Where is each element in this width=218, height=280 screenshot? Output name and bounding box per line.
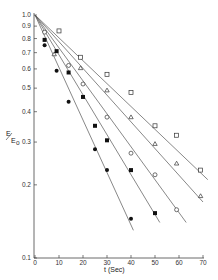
open-circle-marker	[67, 63, 71, 67]
x-tick-label: 20	[79, 259, 87, 266]
open-circle-marker	[129, 151, 133, 155]
x-tick-label: 30	[103, 259, 111, 266]
y-tick-label: 0.6	[22, 65, 31, 72]
filled-square-marker	[81, 95, 85, 99]
filled-square-marker	[129, 168, 133, 172]
open-triangle-marker	[105, 88, 109, 92]
open-triangle-marker	[153, 142, 157, 146]
filled-square-marker	[43, 38, 47, 42]
fit-line	[35, 15, 160, 222]
open-square-marker	[79, 55, 83, 59]
filled-circle-marker	[105, 168, 109, 172]
open-square-marker	[175, 133, 179, 137]
open-triangle-marker	[129, 115, 133, 119]
fit-line	[35, 15, 133, 230]
fit-lines	[35, 15, 208, 230]
filled-circle-marker	[55, 69, 59, 73]
open-triangle-marker	[174, 161, 178, 165]
x-tick-label: 60	[175, 259, 183, 266]
open-square-marker	[57, 29, 61, 33]
filled-square-marker	[153, 211, 157, 215]
x-axis-label: t (Sec)	[104, 266, 125, 274]
open-circle-marker	[105, 115, 109, 119]
fit-line	[35, 15, 208, 180]
filled-circle-marker	[67, 100, 71, 104]
x-tick-label: 50	[151, 259, 159, 266]
open-square-marker	[105, 72, 109, 76]
axes: 1.00.90.80.70.60.50.40.30.20.10102030405…	[22, 11, 207, 266]
open-circle-marker	[153, 173, 157, 177]
y-axis-label-numerator: E	[6, 130, 11, 137]
open-circle-marker	[81, 82, 85, 86]
filled-square-marker	[55, 49, 59, 53]
open-triangle-marker	[198, 194, 202, 198]
filled-circle-marker	[93, 147, 97, 151]
y-tick-label: 0.3	[22, 138, 31, 145]
filled-circle-marker	[129, 217, 133, 221]
y-tick-label: 1.0	[22, 11, 31, 18]
x-tick-label: 0	[33, 259, 37, 266]
data-markers	[43, 29, 203, 221]
open-square-marker	[199, 168, 203, 172]
y-tick-label: 0.8	[22, 35, 31, 42]
open-square-marker	[129, 90, 133, 94]
fit-line	[35, 15, 203, 202]
filled-square-marker	[105, 138, 109, 142]
filled-circle-marker	[43, 43, 47, 47]
y-axis-label: E E o	[6, 130, 20, 146]
open-circle-marker	[43, 30, 47, 34]
y-axis-label-subscript: o	[16, 139, 20, 146]
y-tick-label: 0.7	[22, 49, 31, 56]
open-circle-marker	[175, 208, 179, 212]
y-tick-label: 0.1	[22, 254, 31, 261]
x-tick-label: 40	[127, 259, 135, 266]
y-tick-label: 0.4	[22, 108, 31, 115]
x-tick-label: 70	[199, 259, 207, 266]
fit-line	[35, 15, 186, 222]
filled-square-marker	[67, 70, 71, 74]
open-square-marker	[153, 124, 157, 128]
filled-square-marker	[93, 124, 97, 128]
y-tick-label: 0.9	[22, 22, 31, 29]
y-tick-label: 0.2	[22, 181, 31, 188]
decay-chart: 1.00.90.80.70.60.50.40.30.20.10102030405…	[0, 0, 218, 280]
y-tick-label: 0.5	[22, 84, 31, 91]
x-tick-label: 10	[55, 259, 63, 266]
